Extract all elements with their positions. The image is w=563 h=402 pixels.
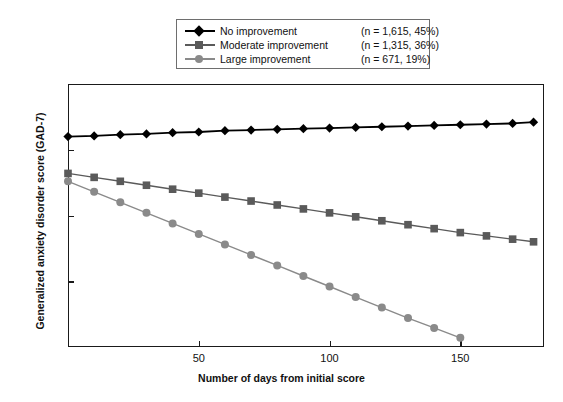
x-tick-mark xyxy=(330,341,332,347)
x-tick-label: 100 xyxy=(310,352,350,364)
y-tick-mark xyxy=(68,216,74,218)
legend-note-large-improvement: (n = 671, 19%) xyxy=(361,53,430,65)
x-tick-mark xyxy=(199,341,201,347)
x-tick-mark xyxy=(460,341,462,347)
legend-marker-square-icon xyxy=(185,39,215,51)
y-axis-title: Generalized anxiety disorder score (GAD-… xyxy=(34,91,46,351)
y-tick-mark xyxy=(68,281,74,283)
y-tick-mark xyxy=(68,150,74,152)
legend-label-moderate-improvement: Moderate improvement xyxy=(220,39,361,51)
legend-item-moderate-improvement: Moderate improvement (n = 1,315, 36%) xyxy=(185,38,421,52)
plot-frame xyxy=(68,84,544,347)
legend-marker-circle-icon xyxy=(185,53,215,65)
legend-label-no-improvement: No improvement xyxy=(220,25,361,37)
chart-legend: No improvement (n = 1,615, 45%) Moderate… xyxy=(176,19,430,69)
x-tick-label: 50 xyxy=(179,352,219,364)
x-tick-label: 150 xyxy=(440,352,480,364)
x-axis-title: Number of days from initial score xyxy=(0,372,563,384)
legend-note-no-improvement: (n = 1,615, 45%) xyxy=(361,25,439,37)
legend-label-large-improvement: Large improvement xyxy=(220,53,361,65)
legend-marker-diamond-icon xyxy=(185,25,215,37)
legend-item-large-improvement: Large improvement (n = 671, 19%) xyxy=(185,52,421,66)
legend-note-moderate-improvement: (n = 1,315, 36%) xyxy=(361,39,439,51)
chart-page: No improvement (n = 1,615, 45%) Moderate… xyxy=(0,0,563,402)
legend-item-no-improvement: No improvement (n = 1,615, 45%) xyxy=(185,24,421,38)
